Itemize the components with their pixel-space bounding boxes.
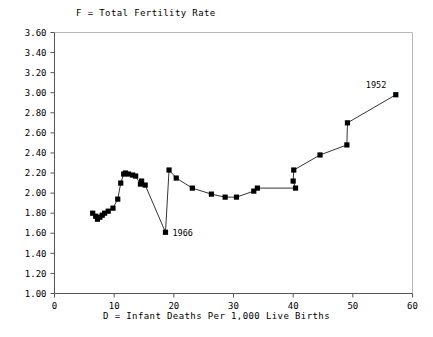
- y-tick-label: 2.60: [25, 128, 47, 138]
- data-point-marker: [138, 181, 143, 186]
- x-tick-label: 40: [288, 301, 299, 311]
- data-point-marker: [317, 152, 322, 157]
- data-point-marker: [209, 192, 214, 197]
- x-axis-label: D = Infant Deaths Per 1,000 Live Births: [0, 311, 433, 321]
- chart-container: F = Total Fertility Rate 1.001.201.401.6…: [0, 0, 433, 337]
- y-tick-label: 1.60: [25, 228, 47, 238]
- y-tick-label: 3.60: [25, 28, 47, 38]
- data-point-marker: [345, 120, 350, 125]
- data-point-annotation: 1952: [366, 80, 386, 90]
- data-point-marker: [121, 171, 126, 176]
- data-point-marker: [166, 167, 171, 172]
- y-tick-label: 2.80: [25, 108, 47, 118]
- y-tick-label: 1.40: [25, 249, 47, 259]
- data-point-marker: [291, 178, 296, 183]
- series-line: [93, 95, 396, 233]
- y-tick-label: 2.00: [25, 188, 47, 198]
- data-point-marker: [110, 206, 115, 211]
- y-tick-label: 3.00: [25, 88, 47, 98]
- x-tick-label: 60: [407, 301, 418, 311]
- y-tick-label: 2.20: [25, 168, 47, 178]
- y-tick-label: 1.00: [25, 289, 47, 299]
- y-tick-label: 1.80: [25, 208, 47, 218]
- data-point-marker: [223, 195, 228, 200]
- x-tick-label: 0: [52, 301, 57, 311]
- data-point-marker: [90, 211, 95, 216]
- data-point-marker: [163, 230, 168, 235]
- x-tick-label: 20: [168, 301, 179, 311]
- y-tick-label: 2.40: [25, 148, 47, 158]
- y-tick-label: 3.20: [25, 68, 47, 78]
- data-point-marker: [118, 180, 123, 185]
- x-tick-label: 50: [347, 301, 358, 311]
- data-point-marker: [393, 92, 398, 97]
- scatter-line-plot: 1.001.201.401.601.802.002.202.402.602.80…: [0, 0, 433, 337]
- data-point-marker: [115, 197, 120, 202]
- data-point-marker: [291, 167, 296, 172]
- data-point-marker: [344, 142, 349, 147]
- data-point-marker: [174, 175, 179, 180]
- y-tick-label: 3.40: [25, 48, 47, 58]
- x-tick-label: 10: [109, 301, 120, 311]
- data-point-marker: [234, 195, 239, 200]
- data-point-marker: [251, 189, 256, 194]
- data-point-marker: [190, 185, 195, 190]
- data-point-marker: [293, 185, 298, 190]
- data-point-annotation: 1966: [172, 228, 192, 238]
- y-tick-label: 1.20: [25, 269, 47, 279]
- x-tick-label: 30: [228, 301, 239, 311]
